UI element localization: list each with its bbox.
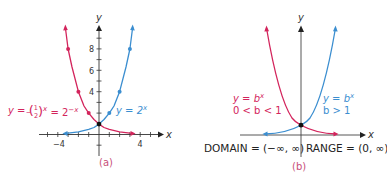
x-tick-label-neg4: −4 <box>53 140 65 149</box>
panel-a: x −4 4 y <box>7 12 172 168</box>
red-curve-end-arrow-icon <box>131 131 136 136</box>
blue-curve-end-arrow-icon <box>63 131 68 136</box>
blue-curve-b-label-line2: b > 1 <box>323 105 350 116</box>
caption-b: (b) <box>292 161 306 172</box>
y-axis-b-arrow-icon <box>298 26 304 33</box>
panel-b: x y y = bx 0 < b < 1 y = bx b > 1 DOMAIN… <box>204 12 387 172</box>
blue-curve-b-end-arrow-icon <box>263 132 268 137</box>
x-axis-b-label: x <box>367 129 374 140</box>
x-tick-label-4: 4 <box>138 140 143 149</box>
y-axis-b-label: y <box>297 12 305 23</box>
red-curve-arrow-icon <box>63 25 68 31</box>
red-curve-b-label-line1: y = bx <box>232 92 265 104</box>
blue-curve-b-arrow-icon <box>333 26 338 32</box>
exponential-graphs-figure: x −4 4 y <box>0 0 387 183</box>
x-axis-arrow-icon <box>158 132 164 138</box>
red-curve-b-arrow-icon <box>264 26 269 32</box>
range-text: RANGE = (0, ∞) <box>306 142 387 154</box>
domain-text: DOMAIN = (−∞, ∞) <box>204 142 304 154</box>
y-tick-label-8: 8 <box>89 45 94 54</box>
blue-curve-label: y = 2x <box>115 104 148 116</box>
caption-a: (a) <box>99 157 113 168</box>
y-tick-label-4: 4 <box>89 88 94 97</box>
blue-curve-arrow-icon <box>130 25 135 31</box>
x-axis-label: x <box>165 129 172 140</box>
x-axis-b-arrow-icon <box>360 132 366 138</box>
red-curve-b-label-line2: 0 < b < 1 <box>233 105 282 116</box>
y-axis-label: y <box>95 12 103 23</box>
intersection-point <box>97 122 102 127</box>
y-axis-arrow-icon <box>96 25 102 31</box>
blue-curve-b-label-line1: y = bx <box>322 92 355 104</box>
red-curve-label: y = (12)x = 2−x <box>7 103 79 120</box>
intersection-point-b <box>299 123 304 128</box>
y-tick-label-6: 6 <box>89 67 94 76</box>
red-curve-b-end-arrow-icon <box>334 132 339 137</box>
blue-curve-b <box>265 28 336 134</box>
